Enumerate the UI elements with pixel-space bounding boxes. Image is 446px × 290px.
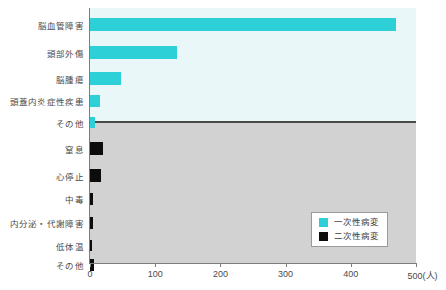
bar <box>90 117 95 128</box>
y-axis-category-label: 内分泌・代謝障害 <box>10 217 84 229</box>
y-axis-category-label: 脳血管障害 <box>38 19 85 31</box>
bar-chart: 0100200300400500(人) 脳血管障害頭部外傷脳腫瘍頭蓋内炎症性疾患… <box>0 0 446 290</box>
legend-item-secondary: 二次性病変 <box>319 232 379 241</box>
x-axis-tick <box>90 263 91 267</box>
bar <box>90 72 121 85</box>
x-axis-tick <box>220 263 221 267</box>
y-axis-category-label: 頭部外傷 <box>47 47 84 59</box>
y-axis-line <box>89 8 90 264</box>
chart-legend: 一次性病変 二次性病変 <box>311 212 388 247</box>
x-axis-tick <box>416 263 417 267</box>
legend-swatch-secondary-icon <box>319 232 328 241</box>
y-axis-category-label: 脳腫瘍 <box>56 73 84 85</box>
y-axis-category-label: 心停止 <box>56 170 84 182</box>
legend-label-primary: 一次性病変 <box>334 218 379 227</box>
x-axis-tick-label: 200 <box>213 269 228 279</box>
bar <box>90 142 103 155</box>
x-axis-tick <box>286 263 287 267</box>
bar <box>90 46 177 59</box>
y-axis-category-label: 中毒 <box>65 193 84 205</box>
y-axis-category-label: 頭蓋内炎症性疾患 <box>10 95 84 107</box>
bar <box>90 18 396 31</box>
x-axis-tick <box>351 263 352 267</box>
x-axis-tick-label: 400 <box>343 269 358 279</box>
x-axis-tick-label: 0 <box>87 269 92 279</box>
y-axis-category-label: その他 <box>56 117 84 129</box>
legend-item-primary: 一次性病変 <box>319 218 379 227</box>
x-axis-tick-label: 500(人) <box>408 269 438 282</box>
panel-divider <box>90 121 416 123</box>
y-axis-category-label: 低体温 <box>56 240 84 252</box>
bar <box>90 95 100 107</box>
x-axis-tick-label: 300 <box>278 269 293 279</box>
legend-label-secondary: 二次性病変 <box>334 232 379 241</box>
x-axis-tick <box>155 263 156 267</box>
y-axis-category-label: その他 <box>56 259 84 271</box>
y-axis-category-label: 窒息 <box>65 143 84 155</box>
legend-swatch-primary-icon <box>319 218 328 227</box>
x-axis-line <box>89 263 417 264</box>
bar <box>90 217 93 229</box>
bar <box>90 193 93 205</box>
bar <box>90 169 101 182</box>
x-axis-tick-label: 100 <box>148 269 163 279</box>
bar <box>90 240 92 251</box>
